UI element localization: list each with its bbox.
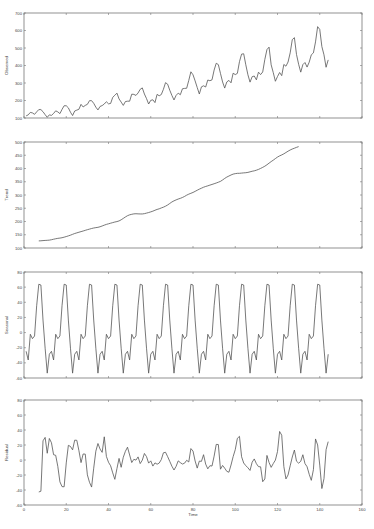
series-line-observed <box>26 27 328 118</box>
panel-trend: 100150200250300350400450500Trend <box>4 140 362 251</box>
y-tick-label: -40 <box>16 360 23 365</box>
y-tick-label: 250 <box>15 206 23 211</box>
y-tick-label: -20 <box>16 473 23 478</box>
y-tick-label: 20 <box>17 443 22 448</box>
y-tick-label: -20 <box>16 345 23 350</box>
y-tick-label: -40 <box>16 488 23 493</box>
y-tick-label: 300 <box>15 193 23 198</box>
y-tick-label: 400 <box>15 166 23 171</box>
panel-residual: -60-40-20020406080020406080100120140160R… <box>4 398 366 513</box>
x-tick-label: 20 <box>64 507 69 512</box>
x-tick-label: 40 <box>106 507 111 512</box>
y-tick-label: 700 <box>15 11 23 16</box>
y-tick-label: 150 <box>15 232 23 237</box>
y-tick-label: 40 <box>17 300 22 305</box>
series-line-residual <box>39 431 328 491</box>
y-tick-label: 500 <box>15 140 23 145</box>
y-tick-label: 40 <box>17 428 22 433</box>
x-tick-label: 160 <box>359 507 367 512</box>
y-axis-label: Trend <box>4 189 9 201</box>
y-tick-label: 0 <box>20 458 23 463</box>
y-tick-label: 200 <box>15 219 23 224</box>
y-tick-label: 500 <box>15 46 23 51</box>
y-tick-label: 20 <box>17 315 22 320</box>
y-tick-label: 450 <box>15 153 23 158</box>
y-tick-label: 0 <box>20 330 23 335</box>
y-tick-label: -60 <box>16 503 23 508</box>
seasonal-decomposition-chart: 100200300400500600700Observed10015020025… <box>0 0 374 529</box>
x-tick-label: 60 <box>148 507 153 512</box>
y-tick-label: 400 <box>15 63 23 68</box>
y-axis-label: Observed <box>4 55 9 75</box>
panel-observed: 100200300400500600700Observed <box>4 11 362 121</box>
series-line-seasonal <box>26 284 328 373</box>
x-tick-label: 140 <box>316 507 324 512</box>
axes-frame <box>24 142 362 248</box>
panel-seasonal: -60-40-20020406080Seasonal <box>4 270 362 381</box>
y-tick-label: 600 <box>15 28 23 33</box>
y-tick-label: 80 <box>17 398 22 403</box>
y-tick-label: 80 <box>17 270 22 275</box>
axes-frame <box>24 13 362 118</box>
y-tick-label: 350 <box>15 179 23 184</box>
y-tick-label: 60 <box>17 285 22 290</box>
y-axis-label: Residual <box>4 444 9 461</box>
y-tick-label: 100 <box>15 116 23 121</box>
x-axis-label: Time <box>188 512 198 517</box>
y-axis-label: Seasonal <box>4 316 9 334</box>
y-tick-label: -60 <box>16 376 23 381</box>
y-tick-label: 200 <box>15 98 23 103</box>
x-tick-label: 100 <box>232 507 240 512</box>
y-tick-label: 100 <box>15 246 23 251</box>
y-tick-label: 300 <box>15 81 23 86</box>
x-tick-label: 120 <box>274 507 282 512</box>
series-line-trend <box>39 147 299 241</box>
x-tick-label: 0 <box>23 507 26 512</box>
y-tick-label: 60 <box>17 413 22 418</box>
